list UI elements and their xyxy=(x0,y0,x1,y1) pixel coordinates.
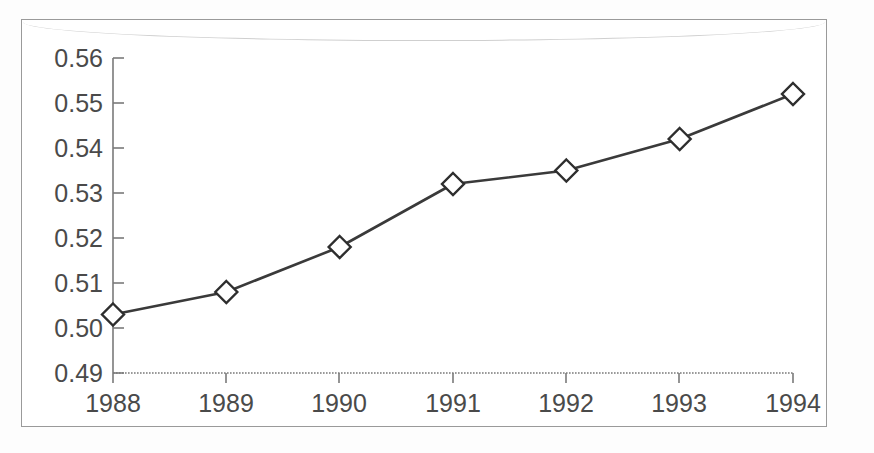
y-tick-label: 0.56 xyxy=(54,44,103,72)
x-tick-label: 1992 xyxy=(538,389,594,417)
x-tick-label: 1989 xyxy=(198,389,254,417)
data-point-marker xyxy=(102,304,124,326)
x-tick-label: 1994 xyxy=(765,389,821,417)
scanned-page: 0.56 0.55 0.54 0.53 0.52 0.51 0.50 0.49 … xyxy=(0,0,874,453)
y-axis-tick-labels: 0.56 0.55 0.54 0.53 0.52 0.51 0.50 0.49 xyxy=(54,44,103,387)
series-line xyxy=(113,94,793,315)
y-tick-label: 0.53 xyxy=(54,179,103,207)
y-tick-label: 0.55 xyxy=(54,89,103,117)
x-tick-label: 1991 xyxy=(425,389,481,417)
data-point-marker xyxy=(215,281,237,303)
y-axis-ticks xyxy=(113,58,124,373)
series-markers xyxy=(102,83,804,326)
y-tick-label: 0.51 xyxy=(54,269,103,297)
x-axis-tick-labels: 1988 1989 1990 1991 1992 1993 1994 xyxy=(85,389,821,417)
x-tick-label: 1990 xyxy=(311,389,367,417)
line-chart: 0.56 0.55 0.54 0.53 0.52 0.51 0.50 0.49 … xyxy=(0,0,874,453)
data-point-marker xyxy=(782,83,804,105)
y-tick-label: 0.50 xyxy=(54,314,103,342)
data-point-marker xyxy=(329,236,351,258)
data-point-marker xyxy=(669,128,691,150)
x-tick-label: 1993 xyxy=(651,389,707,417)
y-tick-label: 0.49 xyxy=(54,359,103,387)
x-tick-label: 1988 xyxy=(85,389,141,417)
y-tick-label: 0.52 xyxy=(54,224,103,252)
x-axis-ticks xyxy=(113,373,793,383)
data-point-marker xyxy=(442,173,464,195)
y-tick-label: 0.54 xyxy=(54,134,103,162)
data-point-marker xyxy=(555,160,577,182)
